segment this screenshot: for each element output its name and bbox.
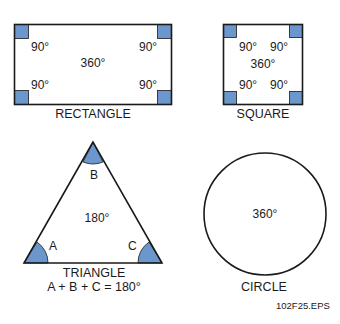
square-angle-top-right: 90° (270, 41, 288, 53)
square-angle-bottom-right: 90° (270, 79, 288, 91)
triangle-vertex-b: B (90, 169, 98, 181)
right-angle-marker (158, 91, 172, 105)
shapes-diagram (0, 0, 340, 324)
right-angle-marker (158, 25, 172, 39)
triangle-formula: A + B + C = 180° (47, 281, 141, 294)
figure-id: 102F25.EPS (276, 301, 330, 311)
rectangle-angle-bottom-right: 90° (139, 79, 157, 91)
right-angle-marker (15, 91, 29, 105)
rectangle-angle-bottom-left: 90° (31, 79, 49, 91)
angle-c-marker (138, 242, 162, 263)
triangle-vertex-a: A (49, 240, 57, 252)
right-angle-marker (224, 92, 237, 105)
right-angle-marker (224, 25, 237, 38)
triangle-vertex-c: C (128, 240, 137, 252)
triangle-caption: TRIANGLE (63, 267, 126, 280)
right-angle-marker (15, 25, 29, 39)
rectangle-caption: RECTANGLE (55, 108, 130, 121)
circle-total: 360° (253, 208, 278, 220)
square-caption: SQUARE (237, 108, 290, 121)
square-angle-bottom-left: 90° (239, 79, 257, 91)
square-angle-top-left: 90° (239, 41, 257, 53)
triangle-shape (24, 142, 162, 263)
square-total: 360° (251, 58, 276, 70)
rectangle-total: 360° (81, 57, 106, 69)
angle-a-marker (24, 242, 48, 263)
triangle-total: 180° (85, 212, 110, 224)
right-angle-marker (290, 92, 303, 105)
circle-caption: CIRCLE (241, 281, 287, 294)
rectangle-angle-top-right: 90° (139, 41, 157, 53)
rectangle-angle-top-left: 90° (31, 41, 49, 53)
right-angle-marker (290, 25, 303, 38)
